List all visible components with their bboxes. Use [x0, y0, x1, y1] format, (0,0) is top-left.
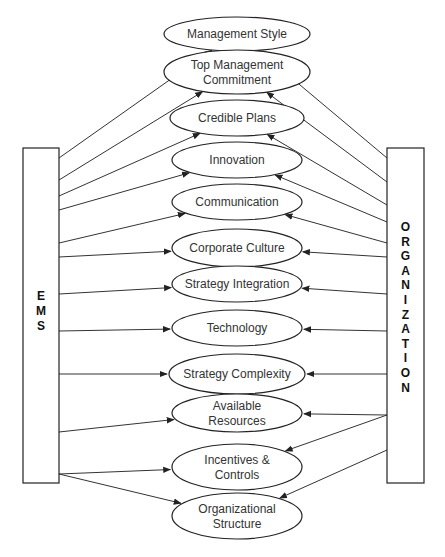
organization-letter: I	[404, 293, 407, 307]
factor-node-credible-plans: Credible Plans	[170, 100, 304, 136]
organization-letter: T	[402, 337, 410, 351]
organization-letter: O	[401, 220, 410, 234]
organization-label: ORGANIZATION	[401, 220, 410, 395]
factor-node-innovation: Innovation	[172, 142, 302, 178]
arrow-ems-to-organizational-structure	[59, 474, 181, 503]
arrow-organization-to-communication	[285, 215, 387, 243]
organization-letter: N	[401, 278, 410, 292]
ems-letter: M	[36, 304, 46, 318]
factor-label: Resources	[208, 414, 265, 428]
organization-letter: A	[401, 322, 410, 336]
organization-box: ORGANIZATION	[387, 148, 424, 483]
factor-node-technology: Technology	[172, 310, 302, 346]
ems-letter: E	[37, 289, 45, 303]
factor-node-strategy-complexity: Strategy Complexity	[169, 354, 305, 394]
factor-label: Organizational	[198, 502, 275, 516]
factor-label: Structure	[213, 517, 262, 531]
arrow-organization-to-available-resources	[304, 414, 387, 415]
arrow-ems-to-available-resources	[59, 420, 174, 432]
ems-letter: S	[37, 319, 45, 333]
factor-label: Innovation	[209, 153, 264, 167]
factor-node-available-resources: AvailableResources	[172, 394, 302, 432]
factor-label: Credible Plans	[198, 111, 276, 125]
organization-letter: Z	[402, 308, 409, 322]
factor-node-incentives-controls: Incentives &Controls	[172, 444, 302, 490]
factor-node-management-style: Management Style	[164, 17, 310, 51]
factor-label: Incentives &	[204, 453, 269, 467]
organization-letter: G	[401, 249, 410, 263]
factor-label: Management Style	[187, 27, 287, 41]
factor-node-top-management-commitment: Top ManagementCommitment	[164, 50, 310, 94]
factor-label: Available	[213, 399, 262, 413]
factor-node-corporate-culture: Corporate Culture	[172, 229, 302, 267]
arrow-ems-to-strategy-integration	[59, 288, 171, 294]
organization-letter: O	[401, 366, 410, 380]
factor-nodes: Management StyleTop ManagementCommitment…	[164, 17, 310, 539]
factor-label: Communication	[195, 195, 278, 209]
factor-node-organizational-structure: OrganizationalStructure	[172, 493, 302, 539]
ems-label: EMS	[36, 289, 46, 333]
arrow-organization-to-corporate-culture	[303, 252, 387, 257]
factor-label: Top Management	[191, 58, 284, 72]
arrow-ems-to-incentives-controls	[59, 470, 170, 474]
arrow-organization-to-incentives-controls	[285, 415, 387, 451]
factor-label: Strategy Complexity	[183, 367, 290, 381]
factor-node-communication: Communication	[172, 184, 302, 220]
factor-label: Controls	[215, 468, 260, 482]
factor-node-strategy-integration: Strategy Integration	[172, 266, 302, 302]
arrow-ems-to-innovation	[59, 173, 189, 210]
factor-label: Technology	[207, 321, 268, 335]
ems-organization-diagram: Management StyleTop ManagementCommitment…	[0, 0, 445, 557]
arrow-ems-to-communication	[59, 214, 185, 243]
factor-label: Corporate Culture	[189, 241, 285, 255]
arrow-organization-to-technology	[304, 329, 387, 331]
factor-label: Commitment	[203, 73, 272, 87]
factor-label: Strategy Integration	[185, 277, 290, 291]
organization-letter: I	[404, 351, 407, 365]
arrow-organization-to-strategy-integration	[302, 288, 387, 294]
arrow-ems-to-corporate-culture	[59, 251, 171, 257]
arrow-ems-to-technology	[59, 329, 170, 331]
organization-letter: N	[401, 381, 410, 395]
organization-letter: R	[401, 235, 410, 249]
ems-box: EMS	[23, 148, 59, 483]
organization-letter: A	[401, 264, 410, 278]
